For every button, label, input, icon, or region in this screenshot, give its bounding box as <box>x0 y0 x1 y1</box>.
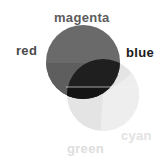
venn-diagram: magenta red blue cyan green <box>0 0 164 166</box>
label-green: green <box>67 142 104 155</box>
label-red: red <box>16 44 37 57</box>
label-magenta: magenta <box>54 11 110 24</box>
label-cyan: cyan <box>121 129 152 142</box>
label-blue: blue <box>126 46 154 59</box>
